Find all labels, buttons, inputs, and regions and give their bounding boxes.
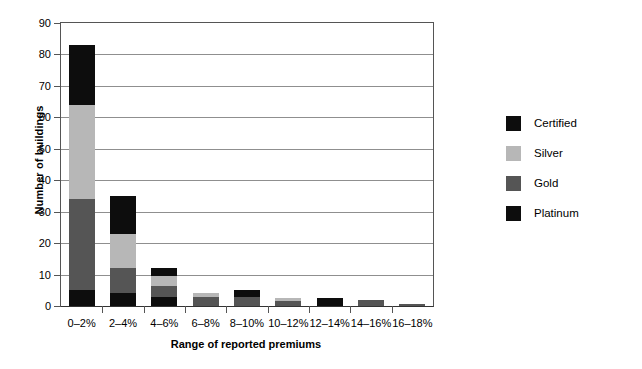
y-axis-tick-label: 60 — [39, 111, 51, 123]
y-axis-tick-label: 0 — [45, 300, 51, 312]
legend-item: Certified — [506, 108, 579, 138]
legend-label: Silver — [534, 147, 563, 159]
bar-segment-platinum — [69, 290, 95, 306]
y-axis-tick-label: 10 — [39, 269, 51, 281]
legend-label: Certified — [534, 117, 577, 129]
y-axis-tick — [54, 86, 61, 87]
bar-segment-silver — [110, 234, 136, 269]
bar-stack — [151, 268, 177, 306]
bar-stack — [234, 290, 260, 306]
bar-stack — [275, 298, 301, 306]
y-axis-tick-label: 20 — [39, 237, 51, 249]
bar-segment-certified — [69, 45, 95, 105]
y-axis-tick — [54, 212, 61, 213]
bar-segment-gold — [193, 297, 219, 306]
bar-stack — [193, 293, 219, 306]
x-axis-tick — [392, 306, 393, 313]
bar-series-layer — [61, 23, 433, 306]
y-axis-tick — [54, 180, 61, 181]
x-axis-tick — [185, 306, 186, 313]
bar-stack — [317, 298, 343, 306]
bar-segment-certified — [110, 196, 136, 234]
bar-stack — [69, 45, 95, 306]
y-axis-tick-label: 70 — [39, 80, 51, 92]
bar-segment-gold — [151, 286, 177, 297]
bar-segment-gold — [234, 297, 260, 306]
y-axis-tick — [54, 275, 61, 276]
x-axis-tick-label: 4–6% — [150, 317, 178, 329]
legend-label: Gold — [534, 177, 558, 189]
bar-segment-silver — [151, 276, 177, 285]
legend-swatch — [506, 206, 521, 221]
x-axis-tick-label: 12–14% — [309, 317, 349, 329]
bar-stack — [399, 304, 425, 307]
legend-label: Platinum — [534, 207, 579, 219]
legend-swatch — [506, 176, 521, 191]
legend: CertifiedSilverGoldPlatinum — [506, 108, 579, 228]
y-axis-tick-label: 30 — [39, 206, 51, 218]
legend-item: Gold — [506, 168, 579, 198]
x-axis-tick-label: 14–16% — [351, 317, 391, 329]
plot-area: 0102030405060708090 0–2%2–4%4–6%6–8%8–10… — [60, 22, 434, 307]
x-axis-tick-label: 16–18% — [392, 317, 432, 329]
x-axis-tick — [144, 306, 145, 313]
y-axis-tick — [54, 23, 61, 24]
chart-figure: Number of buildings 0102030405060708090 … — [0, 0, 642, 369]
y-axis-tick-label: 80 — [39, 48, 51, 60]
x-axis-tick-label: 0–2% — [68, 317, 96, 329]
legend-swatch — [506, 146, 521, 161]
x-axis-tick — [350, 306, 351, 313]
bar-segment-gold — [69, 199, 95, 290]
y-axis-tick-label: 90 — [39, 17, 51, 29]
x-axis-tick-label: 2–4% — [109, 317, 137, 329]
x-axis-tick — [268, 306, 269, 313]
bar-segment-platinum — [110, 293, 136, 306]
bar-segment-silver — [69, 105, 95, 199]
y-axis-tick — [54, 117, 61, 118]
bar-segment-gold — [358, 300, 384, 306]
y-axis-tick-label: 50 — [39, 143, 51, 155]
x-axis-title: Range of reported premiums — [60, 338, 432, 350]
x-axis-tick-label: 10–12% — [268, 317, 308, 329]
y-axis-tick — [54, 243, 61, 244]
bar-stack — [358, 300, 384, 306]
bar-segment-platinum — [151, 297, 177, 306]
bar-segment-gold — [399, 304, 425, 307]
x-axis-tick-label: 6–8% — [192, 317, 220, 329]
x-axis-tick — [226, 306, 227, 313]
bar-stack — [110, 196, 136, 306]
bar-segment-certified — [151, 268, 177, 276]
legend-item: Platinum — [506, 198, 579, 228]
legend-swatch — [506, 116, 521, 131]
y-axis-tick-label: 40 — [39, 174, 51, 186]
y-axis-tick — [54, 306, 61, 307]
bar-segment-gold — [275, 301, 301, 306]
y-axis-tick — [54, 54, 61, 55]
legend-item: Silver — [506, 138, 579, 168]
bar-segment-gold — [110, 268, 136, 293]
x-axis-tick — [309, 306, 310, 313]
x-axis-tick-label: 8–10% — [230, 317, 264, 329]
bar-segment-certified — [317, 298, 343, 306]
x-axis-tick — [102, 306, 103, 313]
y-axis-tick — [54, 149, 61, 150]
